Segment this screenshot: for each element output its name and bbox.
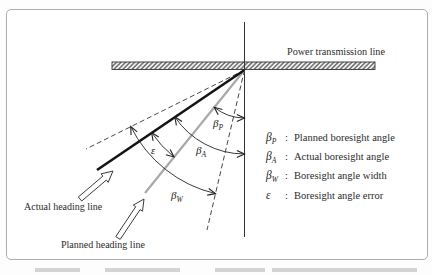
legend-colon: : — [285, 132, 294, 143]
legend-colon: : — [285, 170, 294, 181]
legend-description: Boresight angle error — [294, 190, 383, 201]
planned-heading-label: Planned heading line — [61, 239, 145, 250]
legend-item-actual-boresight: βA : Actual boresight angle — [266, 150, 416, 169]
legend-description: Actual boresight angle — [294, 151, 389, 162]
angle-label-boresight-error: ε — [151, 146, 155, 157]
angle-label-actual-boresight: βA — [196, 145, 206, 156]
planned-heading-pointer-arrow — [116, 199, 144, 239]
legend-colon: : — [285, 190, 294, 201]
caption-fragment — [105, 268, 180, 272]
legend-colon: : — [285, 151, 294, 162]
figure-canvas: Power transmission line Actual heading l… — [0, 0, 432, 275]
caption-fragment — [215, 268, 265, 272]
angle-label-boresight-width: βW — [171, 190, 183, 201]
caption-fragment — [35, 268, 80, 272]
legend-description: Boresight angle width — [294, 170, 387, 181]
legend-item-boresight-error: ε : Boresight angle error — [266, 189, 416, 208]
angle-label-planned-boresight: βP — [213, 118, 223, 129]
legend-item-planned-boresight: βP : Planned boresight angle — [266, 131, 416, 150]
arc-planned-boresight-angle — [214, 107, 244, 118]
arc-actual-boresight-angle — [175, 117, 245, 154]
arc-boresight-angle-width — [131, 127, 216, 194]
legend-symbol: ε — [266, 189, 285, 201]
actual-heading-label: Actual heading line — [24, 201, 102, 212]
legend-description: Planned boresight angle — [294, 132, 395, 143]
actual-heading-pointer-arrow — [78, 171, 113, 201]
power-line-label: Power transmission line — [287, 46, 385, 57]
legend-item-boresight-width: βW : Boresight angle width — [266, 169, 416, 188]
planned-heading-line — [145, 70, 245, 193]
beam-left-dashed-line — [86, 70, 245, 149]
power-line-bar — [112, 62, 375, 70]
legend-symbol: βP — [266, 131, 285, 143]
legend-symbol: βA — [266, 150, 285, 162]
caption-fragment — [272, 268, 417, 272]
legend-symbol: βW — [266, 169, 285, 181]
legend: βP : Planned boresight angle βA : Actual… — [266, 131, 416, 208]
